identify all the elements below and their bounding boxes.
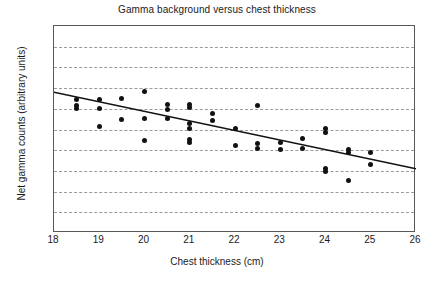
x-tick-label: 26 (395, 234, 434, 245)
x-tick-label: 22 (214, 234, 254, 245)
x-tick-label: 25 (350, 234, 390, 245)
x-tick-label: 20 (124, 234, 164, 245)
chart-page: Gamma background versus chest thickness … (0, 0, 434, 282)
x-tick-label: 23 (259, 234, 299, 245)
x-tick-label: 18 (33, 234, 73, 245)
x-tick-label: 24 (305, 234, 345, 245)
x-tick-label: 21 (169, 234, 209, 245)
x-tick-label: 19 (78, 234, 118, 245)
x-axis-ticks: 181920212223242526 (0, 0, 434, 282)
